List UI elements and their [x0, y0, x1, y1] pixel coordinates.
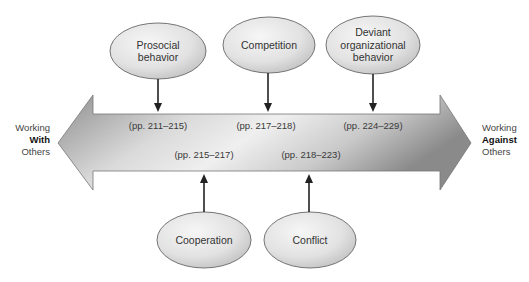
connector-arrow-icon [264, 73, 272, 112]
node-label-prosocial: Prosocial behavior [110, 23, 206, 79]
page-ref-deviant: (pp. 224–229) [333, 120, 413, 132]
page-ref-competition: (pp. 217–218) [226, 120, 306, 132]
page-ref-cooperation: (pp. 215–217) [164, 149, 244, 161]
connector-arrow-icon [369, 74, 377, 112]
continuum-arrow [58, 95, 471, 190]
connector-arrow-icon [305, 174, 313, 212]
right-pole-emphasis: Against [482, 134, 517, 145]
right-pole-label: Working Against Others [482, 122, 529, 158]
node-label-competition: Competition [223, 17, 315, 73]
page-ref-conflict: (pp. 218–223) [271, 149, 351, 161]
left-pole-emphasis: With [30, 134, 51, 145]
node-label-cooperation: Cooperation [157, 212, 251, 268]
connector-arrow-icon [200, 174, 208, 212]
node-label-conflict: Conflict [264, 212, 356, 268]
page-ref-prosocial: (pp. 211–215) [118, 120, 198, 132]
left-pole-label: Working With Others [2, 122, 50, 158]
connector-arrow-icon [154, 79, 162, 112]
node-label-deviant: Deviant organizational behavior [326, 16, 420, 74]
